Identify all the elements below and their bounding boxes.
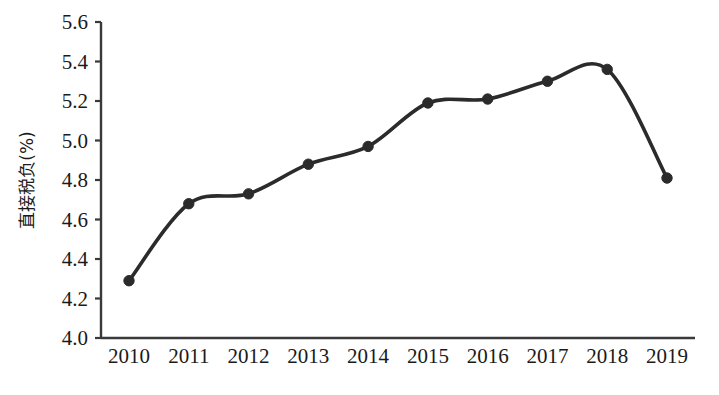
x-axis-tick-label: 2013 xyxy=(287,344,329,368)
x-axis-tick-label: 2016 xyxy=(467,344,509,368)
data-point-marker xyxy=(542,76,552,86)
data-point-marker xyxy=(303,159,313,169)
y-axis: 4.04.24.44.64.85.05.25.45.6 xyxy=(62,10,101,350)
y-axis-tick-label: 5.0 xyxy=(62,129,88,153)
y-axis-tick-label: 4.6 xyxy=(62,208,88,232)
data-point-marker xyxy=(482,94,492,104)
data-point-marker xyxy=(602,64,612,74)
y-axis-tick-label: 4.8 xyxy=(62,168,88,192)
x-axis-tick-label: 2017 xyxy=(526,344,568,368)
data-point-markers xyxy=(124,64,672,286)
chart-container: 4.04.24.44.64.85.05.25.45.6 201020112012… xyxy=(0,0,719,395)
x-axis-tick-label: 2012 xyxy=(228,344,270,368)
x-axis-tick-label: 2015 xyxy=(407,344,449,368)
x-axis-tick-label: 2014 xyxy=(347,344,390,368)
y-axis-tick-label: 5.4 xyxy=(62,50,89,74)
y-axis-tick-label: 5.6 xyxy=(62,10,88,34)
data-point-marker xyxy=(124,276,134,286)
y-axis-tick-label: 4.0 xyxy=(62,326,88,350)
series-line xyxy=(129,64,667,281)
y-axis-tick-label: 4.4 xyxy=(62,247,89,271)
data-series-直接税负 xyxy=(129,64,667,281)
y-axis-title: 直接税负(%) xyxy=(17,131,37,228)
y-axis-title-text: 直接税负(%) xyxy=(17,131,37,228)
x-axis-tick-label: 2011 xyxy=(168,344,209,368)
x-axis-tick-label: 2010 xyxy=(108,344,150,368)
x-axis-tick-label: 2019 xyxy=(646,344,688,368)
y-axis-tick-label: 4.2 xyxy=(62,287,88,311)
data-point-marker xyxy=(363,141,373,151)
data-point-marker xyxy=(662,173,672,183)
data-point-marker xyxy=(243,189,253,199)
line-chart: 4.04.24.44.64.85.05.25.45.6 201020112012… xyxy=(0,0,719,395)
x-axis: 2010201120122013201420152016201720182019 xyxy=(101,338,695,368)
data-point-marker xyxy=(423,98,433,108)
x-axis-tick-label: 2018 xyxy=(586,344,628,368)
data-point-marker xyxy=(184,199,194,209)
y-axis-tick-label: 5.2 xyxy=(62,89,88,113)
